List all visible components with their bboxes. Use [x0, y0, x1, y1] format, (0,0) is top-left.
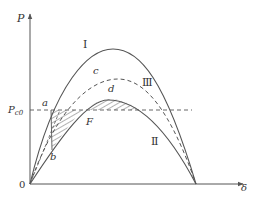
- point-F-label: F: [85, 116, 94, 127]
- power-angle-diagram: P δ 0 Pc0 Ⅰ Ⅲ Ⅱ a b c d F: [0, 0, 253, 198]
- curve-II-label: Ⅱ: [151, 135, 158, 148]
- point-c-label: c: [93, 65, 99, 76]
- acceleration-area: [51, 110, 82, 150]
- pc0-label: Pc0: [7, 104, 24, 117]
- y-axis-label: P: [16, 12, 25, 25]
- x-axis-label: δ: [241, 182, 247, 193]
- point-b-label: b: [50, 151, 56, 162]
- origin-label: 0: [19, 179, 25, 190]
- point-a-label: a: [42, 97, 48, 108]
- point-d-label: d: [108, 83, 114, 94]
- curve-III-label: Ⅲ: [142, 76, 153, 89]
- curve-I-label: Ⅰ: [83, 38, 87, 51]
